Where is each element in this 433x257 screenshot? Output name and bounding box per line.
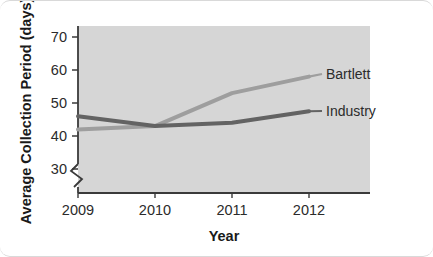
series-label-industry: Industry [326,103,376,119]
x-tick-label-2010: 2010 [139,202,171,218]
series-label-bartlett: Bartlett [326,66,370,82]
y-tick-label-40: 40 [51,128,67,144]
chart-canvas: 70 60 50 40 30 2009 2010 2011 2012 [0,1,433,257]
y-tick-label-60: 60 [51,62,67,78]
x-tick-label-2011: 2011 [216,202,247,218]
x-axis-title: Year [209,228,240,244]
figure-card: 70 60 50 40 30 2009 2010 2011 2012 [0,0,433,257]
line-chart: 70 60 50 40 30 2009 2010 2011 2012 [0,1,433,257]
y-tick-label-50: 50 [51,95,67,111]
y-tick-label-70: 70 [51,29,67,45]
x-tick-label-2009: 2009 [62,202,94,218]
y-axis-title: Average Collection Period (days) [18,1,34,224]
x-tick-label-2012: 2012 [293,202,325,218]
y-tick-label-30: 30 [51,161,67,177]
